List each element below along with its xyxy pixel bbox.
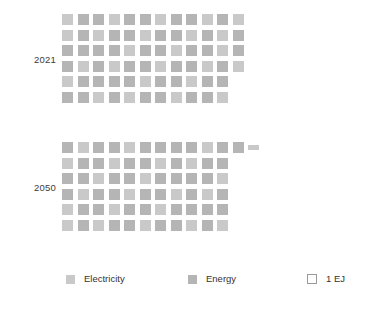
waffle-cell — [155, 30, 166, 41]
waffle-cell — [186, 30, 197, 41]
waffle-cell — [62, 220, 73, 231]
waffle-cell — [62, 204, 73, 215]
waffle-cell — [140, 142, 151, 153]
waffle-cell — [109, 158, 120, 169]
waffle-cell — [155, 189, 166, 200]
waffle-cell — [140, 61, 151, 72]
waffle-cell — [217, 220, 228, 231]
waffle-cell — [109, 76, 120, 87]
waffle-cell — [155, 173, 166, 184]
waffle-cell — [186, 142, 197, 153]
waffle-cell — [109, 173, 120, 184]
waffle-cell — [233, 45, 244, 56]
waffle-cell — [155, 14, 166, 25]
waffle-cell — [93, 173, 104, 184]
waffle-cell — [186, 61, 197, 72]
waffle-cell — [202, 189, 213, 200]
waffle-cell — [202, 220, 213, 231]
waffle-cell — [140, 14, 151, 25]
waffle-cell-partial — [248, 145, 259, 151]
pictogram-chart: 2021 2050 Electricity Energy 1 EJ — [0, 0, 382, 309]
waffle-cell — [78, 92, 89, 103]
waffle-cell — [217, 189, 228, 200]
waffle-cell — [171, 173, 182, 184]
waffle-cell — [78, 45, 89, 56]
waffle-cell — [171, 30, 182, 41]
waffle-cell — [124, 14, 135, 25]
waffle-cell — [186, 92, 197, 103]
waffle-cell — [186, 76, 197, 87]
waffle-cell — [155, 92, 166, 103]
waffle-cell — [109, 142, 120, 153]
waffle-cell — [171, 45, 182, 56]
waffle-cell — [140, 92, 151, 103]
waffle-cell — [140, 158, 151, 169]
waffle-cell — [202, 173, 213, 184]
waffle-cell — [171, 92, 182, 103]
waffle-cell — [217, 92, 228, 103]
waffle-cell — [202, 204, 213, 215]
waffle-cell — [202, 92, 213, 103]
waffle-cell — [171, 14, 182, 25]
waffle-cell — [202, 158, 213, 169]
waffle-cell — [124, 92, 135, 103]
waffle-cell — [109, 220, 120, 231]
legend-item-electricity[interactable]: Electricity — [66, 271, 125, 287]
waffle-cell — [109, 61, 120, 72]
waffle-cell — [202, 14, 213, 25]
waffle-cell — [62, 142, 73, 153]
waffle-cell — [109, 204, 120, 215]
waffle-cell — [217, 173, 228, 184]
waffle-cell — [186, 14, 197, 25]
waffle-cell — [93, 92, 104, 103]
waffle-cell — [217, 142, 228, 153]
waffle-cell — [78, 30, 89, 41]
waffle-cell — [124, 220, 135, 231]
waffle-cell — [93, 30, 104, 41]
waffle-cell — [186, 220, 197, 231]
waffle-cell — [124, 61, 135, 72]
waffle-cell — [155, 45, 166, 56]
waffle-cell — [93, 158, 104, 169]
waffle-cell — [155, 76, 166, 87]
waffle-cell — [124, 45, 135, 56]
waffle-cell — [171, 142, 182, 153]
waffle-cell — [109, 45, 120, 56]
waffle-cell — [78, 173, 89, 184]
legend-label-electricity: Electricity — [84, 274, 125, 284]
waffle-cell — [140, 173, 151, 184]
waffle-cell — [233, 142, 244, 153]
waffle-cell — [62, 76, 73, 87]
waffle-cell — [140, 45, 151, 56]
waffle-cell — [78, 220, 89, 231]
waffle-grid-2050 — [62, 142, 258, 234]
waffle-cell — [186, 45, 197, 56]
waffle-cell — [124, 173, 135, 184]
waffle-cell — [155, 142, 166, 153]
waffle-cell — [93, 14, 104, 25]
waffle-cell — [78, 158, 89, 169]
waffle-cell — [124, 204, 135, 215]
unit-swatch — [307, 274, 317, 284]
waffle-cell — [140, 30, 151, 41]
waffle-cell — [217, 61, 228, 72]
waffle-cell — [93, 204, 104, 215]
energy-swatch — [188, 275, 197, 284]
waffle-cell — [202, 61, 213, 72]
legend-label-energy: Energy — [206, 274, 236, 284]
waffle-cell — [62, 61, 73, 72]
waffle-cell — [186, 158, 197, 169]
waffle-cell — [62, 158, 73, 169]
electricity-swatch — [66, 275, 75, 284]
pictogram-group-2021: 2021 — [0, 14, 382, 106]
waffle-cell — [171, 61, 182, 72]
waffle-cell — [93, 189, 104, 200]
waffle-cell — [124, 158, 135, 169]
waffle-cell — [109, 30, 120, 41]
legend-item-energy[interactable]: Energy — [188, 271, 236, 287]
legend-item-unit[interactable]: 1 EJ — [307, 271, 345, 287]
waffle-cell — [124, 30, 135, 41]
waffle-grid-2021 — [62, 14, 258, 106]
legend-label-unit: 1 EJ — [326, 274, 345, 284]
waffle-cell — [78, 61, 89, 72]
